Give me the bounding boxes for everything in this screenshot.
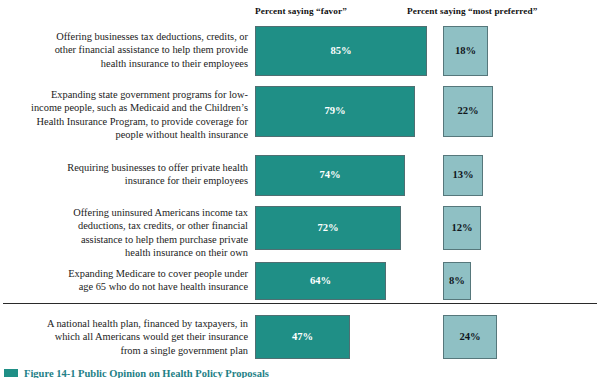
row-label: A national health plan, financed by taxp… (4, 317, 248, 357)
row-label-line: Offering businesses tax deductions, cred… (56, 31, 248, 42)
row-label-line: assistance to help them purchase private (81, 234, 248, 245)
row-label: Requiring businesses to offer private he… (4, 161, 248, 188)
bar-favor: 74% (255, 155, 405, 196)
row-label-line: health insurance on their own (125, 247, 248, 258)
row-label: Offering uninsured Americans income tax … (4, 206, 248, 260)
row-label-line: deductions, tax credits, or other financ… (78, 220, 248, 231)
row-label-line: Expanding Medicare to cover people under (68, 268, 248, 279)
row-label-line: Health Insurance Program, to provide cov… (37, 116, 248, 127)
bar-value-most-preferred: 13% (452, 170, 473, 181)
bar-value-favor: 72% (317, 223, 338, 234)
bar-value-favor: 79% (324, 106, 345, 117)
bar-most-preferred: 12% (443, 206, 481, 250)
bar-favor: 79% (255, 86, 415, 137)
row-label-line: A national health plan, financed by taxp… (47, 318, 248, 329)
bar-favor: 85% (255, 26, 427, 76)
bar-value-most-preferred: 22% (457, 106, 478, 117)
row-label: Offering businesses tax deductions, cred… (4, 30, 248, 70)
row-label-line: other financial assistance to help them … (55, 44, 248, 55)
table-row: Offering uninsured Americans income tax … (0, 206, 600, 258)
bar-value-favor: 85% (330, 46, 351, 57)
table-row: Offering businesses tax deductions, cred… (0, 26, 600, 78)
caption-text: Figure 14-1 Public Opinion on Health Pol… (18, 369, 269, 378)
bar-most-preferred: 18% (443, 26, 488, 76)
row-label-line: Expanding state government programs for … (51, 89, 248, 100)
row-label-line: people without health insurance (116, 129, 248, 140)
row-label: Expanding state government programs for … (4, 88, 248, 142)
bar-most-preferred: 24% (443, 315, 497, 359)
bar-most-preferred: 13% (443, 155, 483, 196)
table-row: Expanding state government programs for … (0, 86, 600, 148)
row-label-line: Offering uninsured Americans income tax (73, 207, 248, 218)
bar-value-most-preferred: 12% (451, 223, 472, 234)
row-label: Expanding Medicare to cover people under… (4, 267, 248, 294)
bar-most-preferred: 22% (443, 86, 493, 137)
caption-marker (4, 369, 18, 377)
bar-value-favor: 74% (319, 170, 340, 181)
table-row: A national health plan, financed by taxp… (0, 315, 600, 361)
row-label-line: which all Americans would get their insu… (55, 331, 248, 342)
row-label-line: income people, such as Medicaid and the … (31, 102, 248, 113)
chart-rows: Offering businesses tax deductions, cred… (0, 0, 600, 378)
bar-value-most-preferred: 18% (455, 46, 476, 57)
row-label-line: insurance for their employees (125, 175, 248, 186)
bar-chart: Percent saying “favor” Percent saying “m… (0, 0, 600, 378)
bar-value-most-preferred: 8% (449, 276, 465, 287)
row-label-line: health insurance to their employees (101, 58, 248, 69)
table-row: Expanding Medicare to cover people under… (0, 262, 600, 302)
table-row: Requiring businesses to offer private he… (0, 155, 600, 197)
bar-favor: 47% (255, 315, 350, 359)
bar-favor: 64% (255, 262, 386, 300)
row-label-line: from a single government plan (120, 345, 248, 356)
bar-value-favor: 47% (292, 332, 313, 343)
bar-most-preferred: 8% (443, 262, 471, 300)
row-label-line: Requiring businesses to offer private he… (67, 162, 248, 173)
row-label-line: age 65 who do not have health insurance (79, 281, 248, 292)
bar-value-most-preferred: 24% (459, 332, 480, 343)
bar-favor: 72% (255, 206, 401, 250)
bar-value-favor: 64% (310, 276, 331, 287)
figure-caption: Figure 14-1 Public Opinion on Health Pol… (4, 369, 596, 378)
